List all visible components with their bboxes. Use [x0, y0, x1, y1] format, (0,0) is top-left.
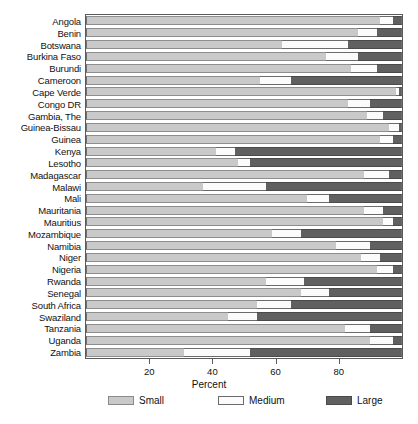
y-axis-label: Mozambique [0, 230, 81, 239]
table-row [86, 253, 402, 262]
bar-segment-medium [228, 312, 256, 321]
y-axis-label: Botswana [0, 41, 81, 50]
legend-item-small[interactable]: Small [108, 395, 164, 406]
bar-segment-medium [238, 158, 251, 167]
bar-segment-small [86, 206, 364, 215]
y-axis-label: Mauritania [0, 206, 81, 215]
bar-segment-large [250, 158, 402, 167]
y-axis-label: Lesotho [0, 159, 81, 168]
bar-segment-large [393, 16, 402, 25]
bar-segment-medium [348, 99, 370, 108]
bar-segment-large [348, 40, 402, 49]
bar-segment-small [86, 217, 383, 226]
bar-segment-small [86, 147, 216, 156]
bar-segment-medium [370, 336, 392, 345]
y-axis-label: Guinea [0, 135, 81, 144]
table-row [86, 300, 402, 309]
table-row [86, 241, 402, 250]
legend-swatch-icon [218, 396, 244, 405]
bar-segment-medium [282, 40, 348, 49]
bar-segment-large [257, 312, 402, 321]
y-axis-category-labels: AngolaBeninBotswanaBurkina FasoBurundiCa… [0, 15, 81, 358]
bar-segment-medium [361, 253, 380, 262]
x-axis-tick [276, 359, 277, 364]
table-row [86, 312, 402, 321]
table-row [86, 64, 402, 73]
y-axis-label: Angola [0, 17, 81, 26]
x-axis-tick [212, 359, 213, 364]
bar-segment-small [86, 300, 257, 309]
bar-segment-large [235, 147, 402, 156]
table-row [86, 324, 402, 333]
legend-label: Medium [249, 395, 285, 406]
bar-segment-medium [203, 182, 266, 191]
bar-segment-small [86, 182, 203, 191]
x-axis-tick-label: 60 [256, 366, 296, 377]
y-axis-label: Senegal [0, 289, 81, 298]
bar-segment-large [266, 182, 402, 191]
y-axis-label: Malawi [0, 183, 81, 192]
bar-segment-large [370, 99, 402, 108]
table-row [86, 99, 402, 108]
bar-segment-small [86, 336, 370, 345]
y-axis-label: Zambia [0, 348, 81, 357]
legend-item-medium[interactable]: Medium [218, 395, 285, 406]
bar-segment-small [86, 16, 380, 25]
y-axis-label: Mauritius [0, 218, 81, 227]
bar-segment-medium [216, 147, 235, 156]
legend-swatch-icon [326, 396, 352, 405]
bar-segment-large [370, 241, 402, 250]
bar-segment-large [383, 111, 402, 120]
bar-segment-small [86, 348, 184, 357]
table-row [86, 277, 402, 286]
bar-segment-large [329, 288, 402, 297]
bar-segment-large [399, 87, 402, 96]
table-row [86, 147, 402, 156]
legend-item-large[interactable]: Large [326, 395, 383, 406]
bar-segment-small [86, 158, 238, 167]
x-axis-tick-label: 40 [192, 366, 232, 377]
bar-segment-medium [364, 206, 383, 215]
legend-label: Large [357, 395, 383, 406]
table-row [86, 28, 402, 37]
bar-segment-medium [351, 64, 376, 73]
bar-segment-medium [358, 28, 377, 37]
y-axis-label: Burundi [0, 64, 81, 73]
table-row [86, 40, 402, 49]
bar-segment-small [86, 241, 336, 250]
y-axis-label: Kenya [0, 147, 81, 156]
legend-swatch-icon [108, 396, 134, 405]
table-row [86, 194, 402, 203]
bar-segment-large [377, 28, 402, 37]
x-axis-tick [339, 359, 340, 364]
bar-segment-large [329, 194, 402, 203]
bar-segment-small [86, 76, 260, 85]
bar-segment-medium [326, 52, 358, 61]
table-row [86, 16, 402, 25]
x-axis-tick-label: 20 [129, 366, 169, 377]
bar-segment-small [86, 265, 377, 274]
bar-segment-medium [380, 16, 393, 25]
legend: SmallMediumLarge [108, 395, 408, 411]
y-axis-label: Benin [0, 29, 81, 38]
bar-segment-large [358, 52, 402, 61]
y-axis-label: Burkina Faso [0, 52, 81, 61]
table-row [86, 229, 402, 238]
bar-segment-small [86, 87, 396, 96]
y-axis-label: Guinea-Bissau [0, 123, 81, 132]
bar-segment-small [86, 123, 389, 132]
y-axis-label: Madagascar [0, 171, 81, 180]
table-row [86, 111, 402, 120]
bar-segment-large [291, 76, 402, 85]
bar-segment-small [86, 64, 351, 73]
y-axis-label: Swaziland [0, 313, 81, 322]
table-row [86, 87, 402, 96]
bar-segment-medium [364, 170, 389, 179]
y-axis-label: Tanzania [0, 324, 81, 333]
x-axis-title: Percent [0, 379, 418, 390]
y-axis-label: South Africa [0, 301, 81, 310]
bar-segment-small [86, 277, 266, 286]
bar-segment-large [393, 135, 402, 144]
stacked-bar-chart: AngolaBeninBotswanaBurkina FasoBurundiCa… [0, 0, 418, 424]
y-axis-label: Namibia [0, 242, 81, 251]
